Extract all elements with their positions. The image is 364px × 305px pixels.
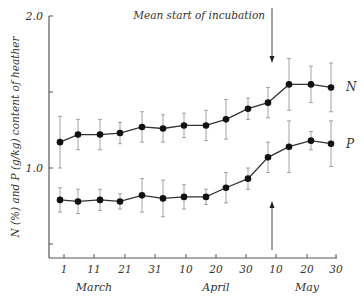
data-point <box>139 192 146 199</box>
y-tick-label: 2.0 <box>25 10 44 23</box>
chart: 2.01.01112131102030102030MarchAprilMayN … <box>0 0 364 305</box>
data-point <box>203 194 210 201</box>
x-tick-label: 11 <box>87 263 100 275</box>
data-point <box>160 195 167 202</box>
data-point <box>265 99 272 106</box>
x-tick-label: 20 <box>208 263 223 275</box>
data-point <box>160 125 167 132</box>
data-point <box>57 197 64 204</box>
down-arrow-head <box>270 56 275 63</box>
x-tick-label: 21 <box>117 263 131 275</box>
data-point <box>181 194 188 201</box>
month-label: May <box>294 281 320 294</box>
x-tick-label: 31 <box>148 263 161 275</box>
data-point <box>139 124 146 131</box>
data-point <box>57 139 64 146</box>
series-label-P: P <box>345 137 355 151</box>
data-point <box>117 130 124 137</box>
data-point <box>181 122 188 129</box>
data-point <box>286 81 293 88</box>
x-tick-label: 30 <box>239 263 253 275</box>
data-point <box>328 84 335 91</box>
data-point <box>203 122 210 129</box>
data-point <box>223 184 230 191</box>
series-label-N: N <box>345 80 357 94</box>
data-point <box>328 140 335 147</box>
data-point <box>245 105 252 112</box>
data-point <box>75 131 82 138</box>
data-point <box>117 198 124 205</box>
month-label: April <box>201 281 230 294</box>
data-point <box>245 175 252 182</box>
x-tick-label: 10 <box>269 263 283 275</box>
data-point <box>97 131 104 138</box>
up-arrow-head <box>270 201 275 208</box>
data-point <box>223 116 230 123</box>
y-axis-label: N (%) and P (g/kg) content of heather <box>9 35 21 238</box>
x-tick-label: 20 <box>299 263 314 275</box>
data-point <box>75 198 82 205</box>
x-tick-label: 10 <box>179 263 193 275</box>
data-point <box>308 137 315 144</box>
month-label: March <box>75 281 112 294</box>
x-tick-label: 1 <box>61 263 68 275</box>
annotation-text: Mean start of incubation <box>132 9 265 21</box>
data-point <box>308 81 315 88</box>
data-point <box>265 154 272 161</box>
x-tick-label: 30 <box>329 263 343 275</box>
data-point <box>97 197 104 204</box>
y-tick-label: 1.0 <box>26 162 44 175</box>
data-point <box>286 143 293 150</box>
